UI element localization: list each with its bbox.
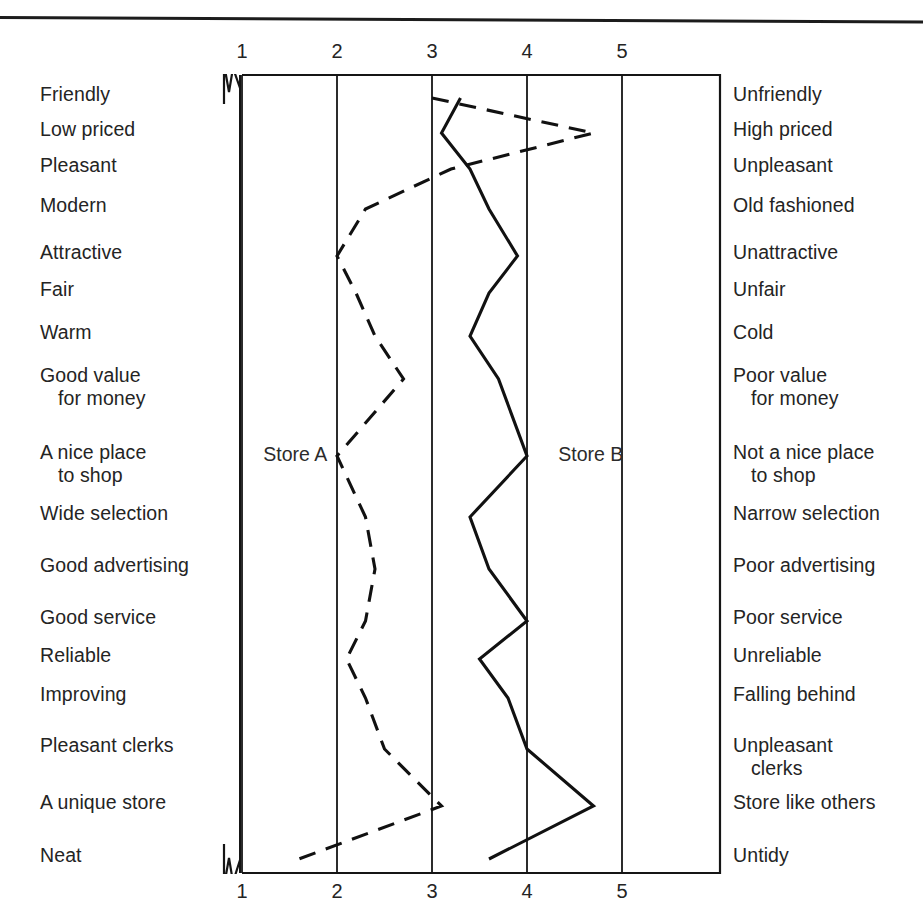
- right-pole-label-11: Poor service: [733, 606, 843, 629]
- right-pole-label-text: Not a nice place: [733, 441, 874, 463]
- left-pole-label-text: Attractive: [40, 241, 122, 263]
- left-pole-label-text: A nice place: [40, 441, 146, 463]
- right-pole-label-6: Cold: [733, 321, 774, 344]
- right-pole-label-text: Narrow selection: [733, 502, 880, 524]
- axis-tick-top-4: 4: [521, 40, 532, 63]
- right-pole-label-text-line2: for money: [733, 387, 839, 410]
- axis-tick-bottom-2: 2: [331, 880, 342, 903]
- left-pole-label-7: Good valuefor money: [40, 364, 146, 410]
- left-pole-label-1: Low priced: [40, 118, 135, 141]
- right-pole-labels: UnfriendlyHigh pricedUnpleasantOld fashi…: [725, 0, 923, 922]
- right-pole-label-text: Old fashioned: [733, 194, 855, 216]
- right-pole-label-text: Poor advertising: [733, 554, 876, 576]
- right-pole-label-5: Unfair: [733, 278, 786, 301]
- right-pole-label-15: Store like others: [733, 791, 876, 814]
- left-pole-label-text: A unique store: [40, 791, 166, 813]
- left-pole-label-8: A nice placeto shop: [40, 441, 146, 487]
- left-pole-label-text: Good service: [40, 606, 156, 628]
- right-pole-label-8: Not a nice placeto shop: [733, 441, 874, 487]
- right-pole-label-text: Unfair: [733, 278, 786, 300]
- right-pole-label-4: Unattractive: [733, 241, 838, 264]
- right-pole-label-16: Untidy: [733, 844, 789, 867]
- right-pole-label-9: Narrow selection: [733, 502, 880, 525]
- left-pole-label-text: Low priced: [40, 118, 135, 140]
- right-pole-label-13: Falling behind: [733, 683, 856, 706]
- left-pole-label-11: Good service: [40, 606, 156, 629]
- left-pole-labels: FriendlyLow pricedPleasantModernAttracti…: [0, 0, 222, 922]
- axis-break-bottom: [224, 844, 240, 874]
- left-pole-label-text: Good value: [40, 364, 141, 386]
- right-pole-label-text: Store like others: [733, 791, 876, 813]
- chart-page: FriendlyLow pricedPleasantModernAttracti…: [0, 0, 923, 922]
- right-pole-label-14: Unpleasantclerks: [733, 734, 833, 780]
- right-pole-label-12: Unreliable: [733, 644, 822, 667]
- left-pole-label-text-line2: to shop: [40, 464, 146, 487]
- left-pole-label-text: Pleasant clerks: [40, 734, 174, 756]
- profile-chart-svg: [222, 74, 722, 874]
- right-pole-label-text: High priced: [733, 118, 833, 140]
- store-b-annotation: Store B: [558, 443, 623, 466]
- left-pole-label-10: Good advertising: [40, 554, 189, 577]
- left-pole-label-15: A unique store: [40, 791, 166, 814]
- left-pole-label-3: Modern: [40, 194, 107, 217]
- plot-area: 12345 12345 Store A Store B: [222, 74, 722, 874]
- left-pole-label-0: Friendly: [40, 83, 110, 106]
- left-pole-label-text: Friendly: [40, 83, 110, 105]
- series-line-store-a: [299, 98, 594, 859]
- left-pole-label-text: Pleasant: [40, 154, 117, 176]
- left-pole-label-text: Reliable: [40, 644, 111, 666]
- axis-break-top: [224, 74, 240, 104]
- left-pole-label-16: Neat: [40, 844, 82, 867]
- left-pole-label-text: Wide selection: [40, 502, 168, 524]
- left-pole-label-text: Good advertising: [40, 554, 189, 576]
- right-pole-label-text-line2: to shop: [733, 464, 874, 487]
- axis-tick-bottom-5: 5: [616, 880, 627, 903]
- left-pole-label-9: Wide selection: [40, 502, 168, 525]
- series-line-store-b: [442, 98, 594, 859]
- right-pole-label-10: Poor advertising: [733, 554, 876, 577]
- axis-tick-bottom-1: 1: [236, 880, 247, 903]
- axis-tick-top-3: 3: [426, 40, 437, 63]
- right-pole-label-7: Poor valuefor money: [733, 364, 839, 410]
- right-pole-label-3: Old fashioned: [733, 194, 855, 217]
- right-pole-label-text-line2: clerks: [733, 757, 833, 780]
- axis-tick-bottom-3: 3: [426, 880, 437, 903]
- left-pole-label-6: Warm: [40, 321, 92, 344]
- left-pole-label-text: Fair: [40, 278, 74, 300]
- axis-tick-bottom-4: 4: [521, 880, 532, 903]
- left-pole-label-text: Improving: [40, 683, 127, 705]
- left-pole-label-2: Pleasant: [40, 154, 117, 177]
- right-pole-label-text: Unreliable: [733, 644, 822, 666]
- right-pole-label-text: Untidy: [733, 844, 789, 866]
- axis-tick-top-1: 1: [236, 40, 247, 63]
- left-pole-label-4: Attractive: [40, 241, 122, 264]
- right-pole-label-text: Unpleasant: [733, 734, 833, 756]
- left-pole-label-text: Warm: [40, 321, 92, 343]
- left-pole-label-5: Fair: [40, 278, 74, 301]
- axis-tick-top-2: 2: [331, 40, 342, 63]
- right-pole-label-text: Cold: [733, 321, 774, 343]
- right-pole-label-1: High priced: [733, 118, 833, 141]
- left-pole-label-text: Modern: [40, 194, 107, 216]
- left-pole-label-text-line2: for money: [40, 387, 146, 410]
- right-pole-label-text: Unpleasant: [733, 154, 833, 176]
- right-pole-label-2: Unpleasant: [733, 154, 833, 177]
- right-pole-label-text: Unfriendly: [733, 83, 822, 105]
- right-pole-label-text: Poor value: [733, 364, 827, 386]
- left-pole-label-text: Neat: [40, 844, 82, 866]
- right-pole-label-text: Poor service: [733, 606, 843, 628]
- store-a-annotation: Store A: [263, 443, 327, 466]
- left-pole-label-12: Reliable: [40, 644, 111, 667]
- left-pole-label-13: Improving: [40, 683, 127, 706]
- axis-tick-top-5: 5: [616, 40, 627, 63]
- right-pole-label-text: Unattractive: [733, 241, 838, 263]
- right-pole-label-0: Unfriendly: [733, 83, 822, 106]
- left-pole-label-14: Pleasant clerks: [40, 734, 174, 757]
- right-pole-label-text: Falling behind: [733, 683, 856, 705]
